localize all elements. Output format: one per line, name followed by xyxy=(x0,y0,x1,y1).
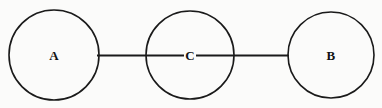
diagram-canvas: A C B xyxy=(0,0,382,108)
node-label-b: B xyxy=(327,49,336,62)
node-label-c: C xyxy=(185,49,195,62)
node-label-a: A xyxy=(49,49,59,62)
